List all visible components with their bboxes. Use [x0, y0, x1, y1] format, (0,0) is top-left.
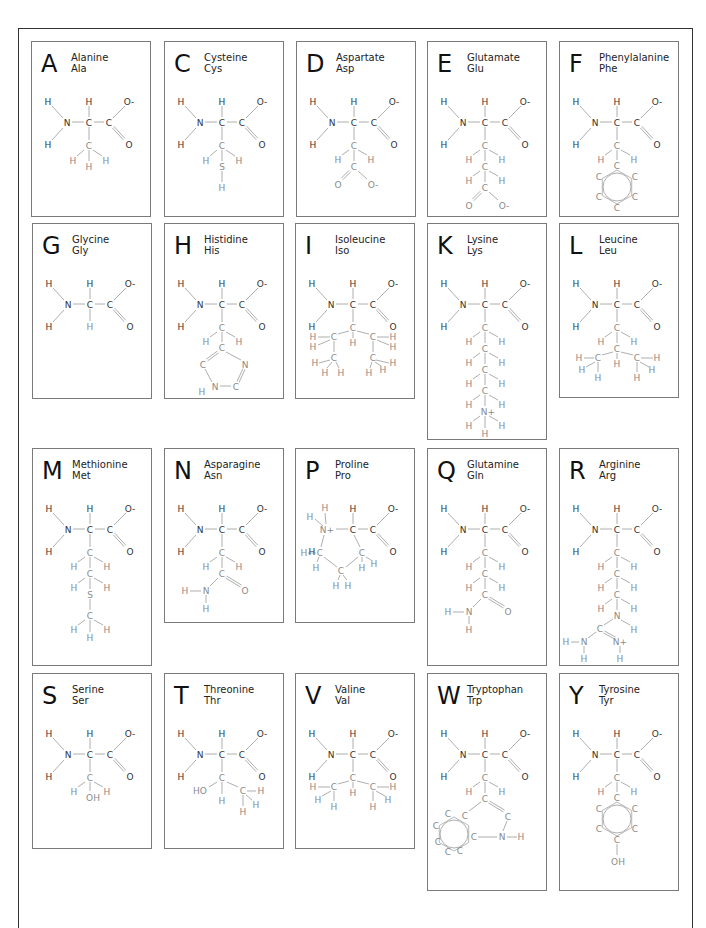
svg-text:C: C [445, 809, 451, 819]
svg-text:H: H [654, 353, 661, 363]
svg-text:N: N [329, 118, 336, 128]
svg-text:O-: O- [652, 97, 663, 107]
svg-text:N: N [328, 300, 335, 310]
svg-text:OH: OH [611, 857, 625, 867]
amino-acid-name: Proline [335, 459, 369, 470]
svg-text:N: N [328, 750, 335, 760]
svg-text:C: C [435, 837, 441, 847]
svg-text:C: C [595, 353, 601, 363]
svg-text:O: O [521, 322, 528, 332]
svg-text:H: H [178, 322, 185, 332]
amino-acid-name: Tryptophan [467, 684, 523, 695]
three-letter-code: Asn [204, 470, 222, 481]
svg-text:C: C [482, 162, 488, 172]
svg-text:H: H [301, 548, 308, 558]
svg-text:C: C [445, 847, 451, 857]
three-letter-code: Asp [336, 63, 354, 74]
svg-text:H: H [335, 155, 342, 165]
three-letter-code: Arg [599, 470, 616, 481]
svg-text:O-: O- [389, 97, 400, 107]
svg-text:C: C [87, 773, 93, 783]
svg-text:C: C [482, 365, 488, 375]
svg-text:O: O [258, 322, 265, 332]
svg-text:H: H [104, 583, 111, 593]
svg-text:H: H [219, 97, 226, 107]
svg-text:O-: O- [499, 201, 510, 211]
svg-text:H: H [104, 787, 111, 797]
one-letter-code: F [569, 51, 583, 77]
one-letter-code: T [174, 683, 189, 709]
three-letter-code: Phe [599, 63, 618, 74]
svg-text:C: C [614, 773, 620, 783]
svg-text:O-: O- [257, 97, 268, 107]
svg-text:H: H [598, 562, 605, 572]
svg-text:O-: O- [125, 729, 136, 739]
amino-acid-name: Alanine [71, 52, 108, 63]
svg-text:C: C [200, 360, 206, 370]
three-letter-code: Cys [204, 63, 222, 74]
svg-text:H: H [631, 155, 638, 165]
svg-text:C: C [632, 804, 638, 814]
svg-text:N: N [460, 300, 467, 310]
svg-text:H: H [441, 140, 448, 150]
svg-text:H: H [499, 176, 506, 186]
svg-text:H: H [46, 729, 53, 739]
svg-text:H: H [499, 787, 506, 797]
amino-acid-name: Isoleucine [335, 234, 385, 245]
svg-text:H: H [322, 368, 329, 378]
one-letter-code: Y [569, 683, 584, 709]
svg-text:C: C [482, 118, 488, 128]
svg-text:H: H [338, 368, 345, 378]
svg-text:H: H [199, 387, 206, 397]
svg-text:N: N [212, 382, 219, 392]
svg-text:H: H [573, 279, 580, 289]
amino-acid-card-threonine: HHO-NCCHOCHOHCHHHTThreonineThr [164, 673, 284, 849]
svg-text:O: O [465, 201, 472, 211]
svg-text:O-: O- [520, 279, 531, 289]
three-letter-code: Ser [72, 695, 89, 706]
svg-text:C: C [87, 525, 93, 535]
three-letter-code: Iso [335, 245, 349, 256]
svg-text:O-: O- [388, 279, 399, 289]
svg-text:O: O [334, 180, 341, 190]
svg-text:C: C [370, 525, 376, 535]
svg-text:O-: O- [652, 504, 663, 514]
svg-text:H: H [466, 400, 473, 410]
svg-text:H: H [203, 156, 210, 166]
svg-text:HO: HO [193, 786, 207, 796]
svg-text:O-: O- [257, 504, 268, 514]
svg-text:H: H [390, 782, 397, 792]
svg-text:O-: O- [388, 729, 399, 739]
svg-text:H: H [87, 633, 94, 643]
svg-text:C: C [482, 141, 488, 151]
svg-text:C: C [370, 782, 376, 792]
svg-text:H: H [631, 583, 638, 593]
svg-text:H: H [87, 504, 94, 514]
svg-text:H: H [307, 512, 314, 522]
amino-acid-card-histidine: HHO-NCCHOCHHCCNNCHHHistidineHis [164, 223, 284, 399]
svg-text:O-: O- [125, 279, 136, 289]
one-letter-code: Q [437, 458, 456, 484]
svg-text:C: C [632, 824, 638, 834]
svg-text:H: H [309, 547, 316, 557]
svg-text:H: H [499, 562, 506, 572]
svg-text:C: C [614, 569, 620, 579]
svg-text:C: C [338, 566, 344, 576]
svg-text:C: C [219, 343, 225, 353]
svg-text:H: H [236, 337, 243, 347]
svg-text:H: H [350, 338, 357, 348]
svg-text:H: H [441, 729, 448, 739]
svg-text:H: H [499, 358, 506, 368]
svg-text:C: C [502, 525, 508, 535]
svg-text:H: H [359, 563, 366, 573]
svg-text:C: C [614, 590, 620, 600]
svg-text:C: C [482, 344, 488, 354]
svg-text:O: O [126, 772, 133, 782]
svg-text:H: H [104, 625, 111, 635]
one-letter-code: D [306, 51, 324, 77]
svg-text:H: H [482, 429, 489, 439]
amino-acid-name: Valine [335, 684, 365, 695]
svg-text:C: C [502, 300, 508, 310]
svg-text:H: H [499, 583, 506, 593]
svg-text:H: H [445, 607, 452, 617]
